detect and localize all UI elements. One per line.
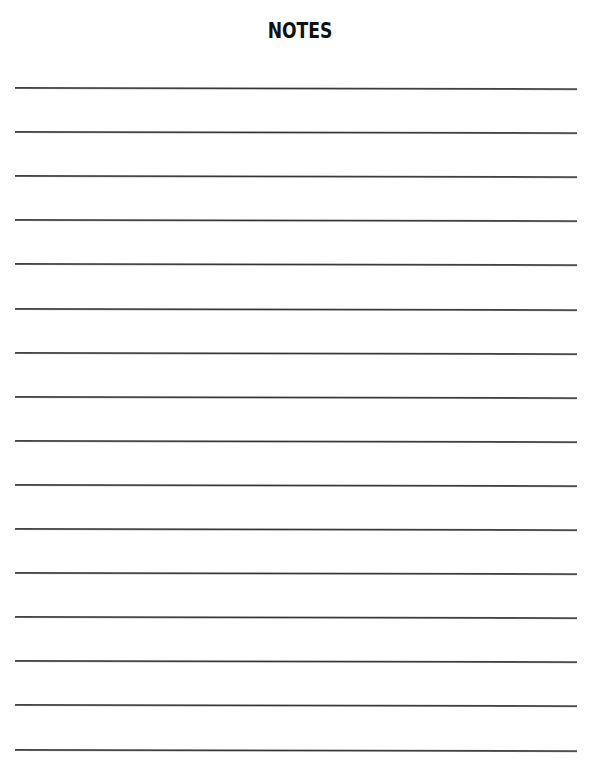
ruled-line (15, 749, 577, 752)
ruled-line (15, 616, 577, 619)
ruled-line (15, 175, 577, 178)
ruled-line (15, 219, 577, 222)
ruled-line (15, 308, 577, 311)
ruled-line (15, 87, 577, 90)
ruled-line (15, 396, 577, 399)
ruled-line (15, 704, 577, 707)
page-title: NOTES (66, 18, 534, 43)
ruled-line (15, 263, 577, 266)
ruled-line (15, 660, 577, 663)
ruled-line (15, 528, 577, 531)
ruled-line (15, 131, 577, 134)
ruled-line (15, 352, 577, 355)
ruled-line (15, 572, 577, 575)
ruled-line (15, 484, 577, 487)
ruled-line (15, 440, 577, 443)
